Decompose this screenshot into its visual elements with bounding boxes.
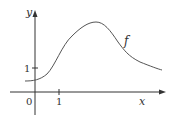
x-axis-label: x — [139, 95, 146, 108]
function-label: f — [123, 34, 131, 48]
origin-label: 0 — [26, 96, 32, 107]
function-graph: y x f 0 1 1 — [0, 0, 175, 118]
function-curve — [25, 22, 162, 81]
y-axis-label: y — [25, 6, 33, 19]
x-axis-arrow-icon — [159, 90, 166, 95]
y-tick-1-label: 1 — [24, 63, 30, 74]
y-axis-arrow-icon — [33, 10, 38, 17]
x-tick-1-label: 1 — [56, 96, 62, 107]
